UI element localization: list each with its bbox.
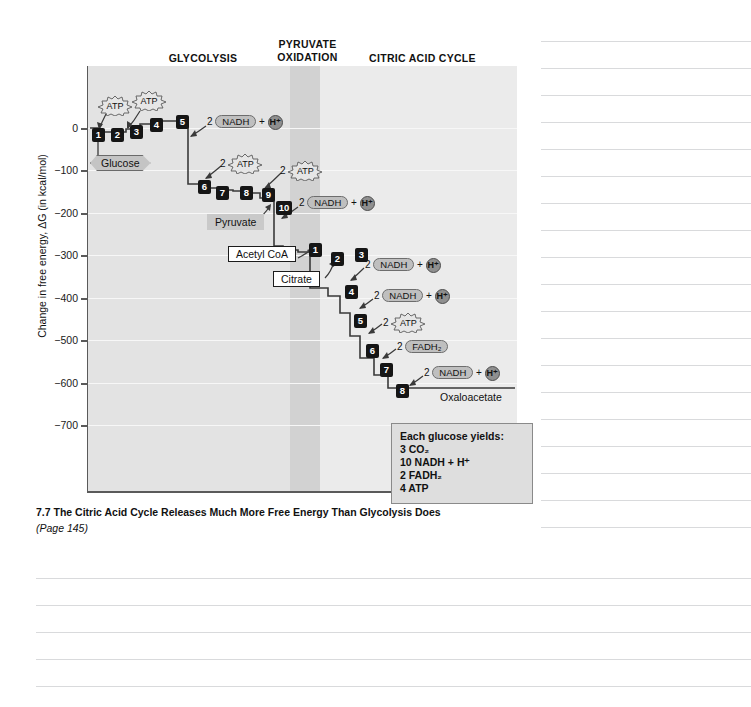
product-fadh2-citric: 2 FADH₂ xyxy=(397,340,448,353)
step-badge-glycolysis-7: 7 xyxy=(216,186,229,200)
nadh-pill: NADH xyxy=(432,366,473,379)
product-nadh-glycolysis: 2 NADH + H⁺ xyxy=(207,115,283,130)
h-plus-circle: H⁺ xyxy=(360,196,375,211)
plus-sign: + xyxy=(351,197,357,208)
step-badge-glycolysis-5: 5 xyxy=(176,115,189,129)
step-badge-citric-2: 2 xyxy=(331,252,344,266)
stoich-count: 2 xyxy=(220,158,226,169)
stoich-count: 2 xyxy=(299,197,305,208)
stoich-count: 2 xyxy=(207,116,213,127)
product-nadh-citric-3: 2 NADH + H⁺ xyxy=(424,366,500,381)
ytick-m700: −700 xyxy=(38,419,78,431)
yields-item-co2: 3 CO₂ xyxy=(400,443,524,456)
rule-line xyxy=(36,632,751,633)
rule-line xyxy=(36,659,751,660)
h-plus-circle: H⁺ xyxy=(426,258,441,273)
rule-line xyxy=(541,176,751,177)
nadh-pill: NADH xyxy=(373,258,414,271)
stoich-count: 2 xyxy=(397,341,403,352)
figure-caption: 7.7 The Citric Acid Cycle Releases Much … xyxy=(36,505,506,535)
ytick-m600: −600 xyxy=(38,377,78,389)
step-badge-citric-8: 8 xyxy=(396,384,409,398)
plus-sign: + xyxy=(259,116,265,127)
product-atp-citric: 2 ATP xyxy=(383,313,425,333)
gridline-m200 xyxy=(88,213,517,214)
step-badge-glycolysis-6: 6 xyxy=(198,180,211,194)
product-atp-glycolysis-2: 2 ATP xyxy=(280,161,322,181)
rule-line xyxy=(541,95,751,96)
step-badge-citric-3: 3 xyxy=(355,248,368,262)
fadh2-pill: FADH₂ xyxy=(405,340,448,353)
rule-line xyxy=(36,686,751,687)
step-badge-citric-1: 1 xyxy=(309,243,322,257)
step-badge-glycolysis-1: 1 xyxy=(92,128,105,142)
rule-line xyxy=(541,473,751,474)
atp-label: ATP xyxy=(288,161,322,181)
nadh-pill: NADH xyxy=(215,115,256,128)
yields-item-nadh: 10 NADH + H⁺ xyxy=(400,456,524,469)
rule-line xyxy=(36,578,751,579)
stoich-count: 2 xyxy=(280,165,286,176)
citrate-label: Citrate xyxy=(273,271,320,287)
rule-line xyxy=(541,257,751,258)
rule-line xyxy=(541,149,751,150)
atp-label: ATP xyxy=(391,313,425,333)
nadh-pill: NADH xyxy=(307,196,348,209)
h-plus-circle: H⁺ xyxy=(485,366,500,381)
plus-sign: + xyxy=(476,367,482,378)
h-plus-circle: H⁺ xyxy=(435,289,450,304)
rule-line xyxy=(541,203,751,204)
yields-item-fadh2: 2 FADH₂ xyxy=(400,469,524,482)
nadh-pill: NADH xyxy=(382,289,423,302)
plus-sign: + xyxy=(426,290,432,301)
rule-line xyxy=(541,527,751,528)
y-axis-tick-labels: 0 −100 −200 −300 −400 −500 −600 −700 xyxy=(34,0,78,500)
acetyl-coa-label: Acetyl CoA xyxy=(228,246,296,262)
step-badge-glycolysis-10: 10 xyxy=(276,201,292,215)
gridline-m400 xyxy=(88,298,517,299)
atp-starburst-icon: ATP xyxy=(288,161,322,181)
stoich-count: 2 xyxy=(383,317,389,328)
atp-starburst-icon: ATP xyxy=(228,154,262,174)
pyruvate-label: Pyruvate xyxy=(207,214,264,230)
plus-sign: + xyxy=(417,259,423,270)
rule-line xyxy=(541,446,751,447)
atp-starburst-icon: ATP xyxy=(132,91,166,111)
ytick-m200: −200 xyxy=(38,207,78,219)
rule-line xyxy=(541,122,751,123)
rule-line xyxy=(541,419,751,420)
glucose-yields-box: Each glucose yields: 3 CO₂ 10 NADH + H⁺ … xyxy=(391,423,533,504)
caption-page-reference: (Page 145) xyxy=(36,521,506,535)
rule-line xyxy=(541,392,751,393)
rule-line xyxy=(541,500,751,501)
product-atp-glycolysis-1: 2 ATP xyxy=(220,154,262,174)
ytick-m300: −300 xyxy=(38,249,78,261)
rule-line xyxy=(541,284,751,285)
step-badge-glycolysis-3: 3 xyxy=(130,125,143,139)
ytick-m500: −500 xyxy=(38,334,78,346)
energy-diagram-figure: GLYCOLYSIS PYRUVATE OXIDATION CITRIC ACI… xyxy=(0,0,530,560)
atp-label: ATP xyxy=(132,91,166,111)
atp-consumed-step1: ATP xyxy=(98,96,132,116)
rule-line xyxy=(541,68,751,69)
ytick-m100: −100 xyxy=(38,164,78,176)
rule-line xyxy=(541,338,751,339)
step-badge-citric-5: 5 xyxy=(354,314,367,328)
product-nadh-citric-1: 2 NADH + H⁺ xyxy=(365,258,441,273)
column-header-citric-acid-cycle: CITRIC ACID CYCLE xyxy=(330,52,515,65)
gridline-m600 xyxy=(88,383,517,384)
step-badge-citric-7: 7 xyxy=(380,363,393,377)
gridline-m500 xyxy=(88,340,517,341)
rule-line xyxy=(541,365,751,366)
step-badge-citric-4: 4 xyxy=(345,285,358,299)
ytick-m400: −400 xyxy=(38,292,78,304)
atp-label: ATP xyxy=(98,96,132,116)
product-nadh-citric-2: 2 NADH + H⁺ xyxy=(374,289,450,304)
atp-starburst-icon: ATP xyxy=(391,313,425,333)
yields-item-atp: 4 ATP xyxy=(400,482,524,495)
step-badge-glycolysis-2: 2 xyxy=(111,128,124,142)
step-badge-citric-6: 6 xyxy=(366,344,379,358)
rule-line xyxy=(541,230,751,231)
glucose-label: Glucose xyxy=(90,155,151,171)
oxaloacetate-label: Oxaloacetate xyxy=(440,391,502,403)
